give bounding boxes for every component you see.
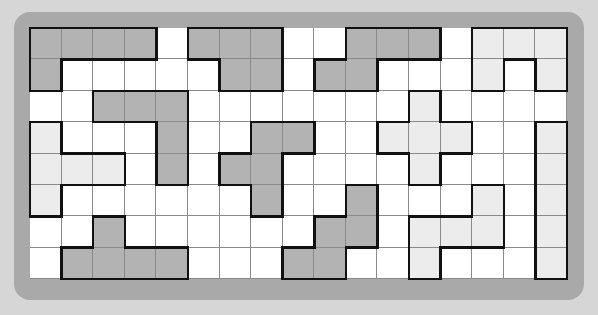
grid-cell-r6-c6[interactable] (220, 216, 252, 247)
grid-cell-r0-c6[interactable] (220, 28, 252, 59)
grid-cell-r2-c15[interactable] (504, 91, 536, 122)
grid-cell-r4-c10[interactable] (346, 154, 378, 185)
grid-cell-r7-c13[interactable] (441, 248, 473, 279)
grid-cell-r4-c5[interactable] (188, 154, 220, 185)
grid-cell-r7-c12[interactable] (409, 248, 441, 279)
grid-cell-r3-c15[interactable] (504, 122, 536, 153)
grid-cell-r5-c9[interactable] (314, 185, 346, 216)
grid-cell-r4-c3[interactable] (125, 154, 157, 185)
grid-cell-r2-c7[interactable] (251, 91, 283, 122)
grid-cell-r5-c4[interactable] (156, 185, 188, 216)
grid-cell-r0-c12[interactable] (409, 28, 441, 59)
grid-cell-r5-c16[interactable] (535, 185, 567, 216)
grid-cell-r2-c1[interactable] (62, 91, 94, 122)
grid-cell-r5-c10[interactable] (346, 185, 378, 216)
grid-cell-r5-c11[interactable] (377, 185, 409, 216)
grid-cell-r1-c13[interactable] (441, 59, 473, 90)
grid-cell-r0-c0[interactable] (30, 28, 62, 59)
grid-cell-r7-c4[interactable] (156, 248, 188, 279)
grid-cell-r1-c0[interactable] (30, 59, 62, 90)
grid-cell-r1-c14[interactable] (472, 59, 504, 90)
grid-cell-r2-c6[interactable] (220, 91, 252, 122)
grid-cell-r3-c8[interactable] (283, 122, 315, 153)
grid-cell-r5-c15[interactable] (504, 185, 536, 216)
grid-cell-r7-c11[interactable] (377, 248, 409, 279)
grid-cell-r5-c3[interactable] (125, 185, 157, 216)
grid-cell-r3-c0[interactable] (30, 122, 62, 153)
grid-cell-r2-c2[interactable] (93, 91, 125, 122)
grid-cell-r4-c2[interactable] (93, 154, 125, 185)
grid-cell-r0-c2[interactable] (93, 28, 125, 59)
grid-cell-r3-c1[interactable] (62, 122, 94, 153)
grid-cell-r5-c13[interactable] (441, 185, 473, 216)
grid-cell-r6-c8[interactable] (283, 216, 315, 247)
grid-cell-r7-c3[interactable] (125, 248, 157, 279)
grid-cell-r1-c11[interactable] (377, 59, 409, 90)
grid-cell-r5-c2[interactable] (93, 185, 125, 216)
grid-cell-r2-c12[interactable] (409, 91, 441, 122)
grid-cell-r0-c4[interactable] (156, 28, 188, 59)
grid-cell-r1-c5[interactable] (188, 59, 220, 90)
grid-cell-r4-c16[interactable] (535, 154, 567, 185)
grid-cell-r2-c11[interactable] (377, 91, 409, 122)
grid-cell-r6-c11[interactable] (377, 216, 409, 247)
grid-cell-r4-c7[interactable] (251, 154, 283, 185)
grid-cell-r3-c16[interactable] (535, 122, 567, 153)
grid-cell-r1-c15[interactable] (504, 59, 536, 90)
grid-cell-r3-c3[interactable] (125, 122, 157, 153)
grid-cell-r2-c14[interactable] (472, 91, 504, 122)
grid-cell-r0-c1[interactable] (62, 28, 94, 59)
grid-cell-r7-c9[interactable] (314, 248, 346, 279)
grid-cell-r0-c13[interactable] (441, 28, 473, 59)
grid-cell-r4-c6[interactable] (220, 154, 252, 185)
grid-cell-r7-c16[interactable] (535, 248, 567, 279)
grid-cell-r6-c9[interactable] (314, 216, 346, 247)
grid-cell-r2-c10[interactable] (346, 91, 378, 122)
grid-cell-r0-c16[interactable] (535, 28, 567, 59)
grid-cell-r1-c4[interactable] (156, 59, 188, 90)
grid-cell-r3-c5[interactable] (188, 122, 220, 153)
grid-cell-r1-c3[interactable] (125, 59, 157, 90)
grid-cell-r3-c12[interactable] (409, 122, 441, 153)
grid-cell-r5-c8[interactable] (283, 185, 315, 216)
grid-cell-r4-c15[interactable] (504, 154, 536, 185)
grid-cell-r4-c0[interactable] (30, 154, 62, 185)
grid-cell-r1-c2[interactable] (93, 59, 125, 90)
grid-cell-r2-c9[interactable] (314, 91, 346, 122)
grid-cell-r3-c13[interactable] (441, 122, 473, 153)
grid-cell-r6-c1[interactable] (62, 216, 94, 247)
grid-cell-r0-c8[interactable] (283, 28, 315, 59)
grid-cell-r4-c8[interactable] (283, 154, 315, 185)
grid-cell-r7-c8[interactable] (283, 248, 315, 279)
grid-cell-r3-c4[interactable] (156, 122, 188, 153)
grid-cell-r7-c14[interactable] (472, 248, 504, 279)
grid-cell-r7-c0[interactable] (30, 248, 62, 279)
grid-cell-r5-c12[interactable] (409, 185, 441, 216)
grid-cell-r0-c14[interactable] (472, 28, 504, 59)
grid-cell-r6-c0[interactable] (30, 216, 62, 247)
grid-cell-r1-c1[interactable] (62, 59, 94, 90)
grid-cell-r3-c10[interactable] (346, 122, 378, 153)
puzzle-grid[interactable] (30, 28, 567, 279)
grid-cell-r6-c12[interactable] (409, 216, 441, 247)
grid-cell-r0-c11[interactable] (377, 28, 409, 59)
grid-cell-r4-c9[interactable] (314, 154, 346, 185)
grid-cell-r1-c9[interactable] (314, 59, 346, 90)
grid-cell-r1-c6[interactable] (220, 59, 252, 90)
grid-cell-r3-c7[interactable] (251, 122, 283, 153)
grid-cell-r2-c8[interactable] (283, 91, 315, 122)
grid-cell-r3-c14[interactable] (472, 122, 504, 153)
grid-cell-r4-c13[interactable] (441, 154, 473, 185)
grid-cell-r1-c12[interactable] (409, 59, 441, 90)
grid-cell-r3-c6[interactable] (220, 122, 252, 153)
grid-cell-r2-c5[interactable] (188, 91, 220, 122)
grid-cell-r7-c15[interactable] (504, 248, 536, 279)
grid-cell-r1-c8[interactable] (283, 59, 315, 90)
grid-cell-r4-c1[interactable] (62, 154, 94, 185)
grid-cell-r2-c0[interactable] (30, 91, 62, 122)
grid-cell-r6-c10[interactable] (346, 216, 378, 247)
grid-cell-r6-c16[interactable] (535, 216, 567, 247)
grid-cell-r4-c12[interactable] (409, 154, 441, 185)
grid-cell-r5-c5[interactable] (188, 185, 220, 216)
grid-cell-r2-c13[interactable] (441, 91, 473, 122)
